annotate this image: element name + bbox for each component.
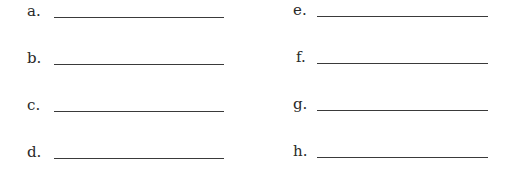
answer-blank-line[interactable]	[54, 111, 224, 112]
answer-item-e: e.	[260, 0, 520, 20]
answer-item-a: a.	[0, 1, 260, 21]
answer-blank-line[interactable]	[317, 63, 488, 64]
item-label: c.	[27, 95, 40, 115]
item-label: a.	[27, 1, 41, 21]
answer-item-d: d.	[0, 142, 260, 162]
answer-item-g: g.	[260, 94, 520, 114]
answer-blank-line[interactable]	[54, 17, 224, 18]
answer-item-c: c.	[0, 95, 260, 115]
item-label: b.	[27, 48, 41, 68]
answer-item-b: b.	[0, 48, 260, 68]
answer-item-f: f.	[260, 47, 520, 67]
item-label: f.	[296, 47, 306, 67]
item-label: e.	[293, 0, 307, 20]
item-label: g.	[293, 94, 307, 114]
answer-item-h: h.	[260, 141, 520, 161]
answer-blank-line[interactable]	[317, 110, 488, 111]
item-label: d.	[27, 142, 41, 162]
answer-blank-line[interactable]	[317, 16, 488, 17]
answer-blank-line[interactable]	[54, 64, 224, 65]
item-label: h.	[293, 141, 307, 161]
answer-blank-line[interactable]	[54, 158, 224, 159]
answer-blank-line[interactable]	[317, 157, 488, 158]
